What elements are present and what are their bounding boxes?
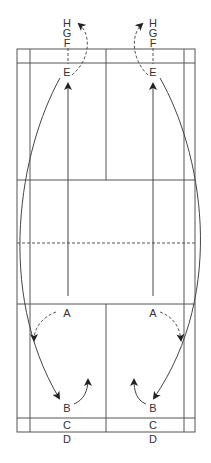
label-f-left: F (64, 37, 71, 49)
right-movement-paths (134, 24, 200, 404)
label-e-left: E (63, 66, 70, 78)
label-e-right: E (149, 66, 156, 78)
label-d-left: D (63, 433, 71, 445)
label-c-right: C (149, 419, 157, 431)
label-d-right: D (149, 433, 157, 445)
label-c-left: C (63, 419, 71, 431)
label-a-left: A (63, 307, 71, 319)
label-f-right: F (150, 37, 157, 49)
label-b-left: B (63, 402, 70, 414)
label-b-right: B (149, 402, 156, 414)
label-a-right: A (149, 307, 157, 319)
left-position-labels: H G F E A B C D (63, 17, 72, 445)
badminton-court-diagram: H G F E A B C D H G F E A B C D (0, 0, 211, 463)
